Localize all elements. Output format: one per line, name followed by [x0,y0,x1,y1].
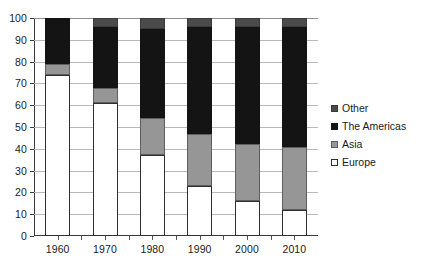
bar-segment-europe[interactable] [282,210,307,236]
x-axis-tick [129,236,130,240]
x-axis-tick [271,236,272,240]
bar-segment-europe[interactable] [140,155,165,236]
y-axis-tick [30,105,34,106]
y-axis-tick-label: 50 [15,121,27,133]
y-axis-tick-label: 90 [15,34,27,46]
x-axis-tick [176,236,177,240]
bar-column[interactable] [93,18,118,236]
x-axis-tick [58,236,59,240]
y-axis-tick [30,18,34,19]
chart-legend: OtherThe AmericasAsiaEurope [331,100,419,172]
bar-segment-other[interactable] [93,18,118,27]
bar-segment-asia[interactable] [93,88,118,103]
bar-segment-americas[interactable] [45,18,70,64]
gridline [34,105,318,106]
y-axis-tick-label: 100 [9,12,27,24]
x-axis-tick [223,236,224,240]
gridline [34,127,318,128]
bar-column[interactable] [282,18,307,236]
x-axis-tick [152,236,153,240]
y-axis-tick-label: 60 [15,99,27,111]
legend-swatch-asia-icon [331,141,338,148]
bar-segment-americas[interactable] [140,29,165,118]
bar-segment-asia[interactable] [282,147,307,210]
plot-area-wrapper: 0102030405060708090100 19601970198019902… [34,18,318,236]
y-axis-tick [30,214,34,215]
y-axis-tick [30,62,34,63]
bar-segment-americas[interactable] [235,27,260,145]
gridline [34,83,318,84]
x-axis-tick-label: 1990 [188,243,212,255]
gridline [34,192,318,193]
bar-segment-other[interactable] [140,18,165,29]
y-axis-tick-label: 20 [15,186,27,198]
legend-swatch-other-icon [331,105,338,112]
bar-segment-asia[interactable] [45,64,70,75]
y-axis-tick [30,149,34,150]
y-axis-tick-label: 0 [21,230,27,242]
y-axis-tick-label: 40 [15,143,27,155]
stacked-bar-chart: 0102030405060708090100 19601970198019902… [0,0,422,267]
legend-swatch-europe-icon [331,159,338,166]
bar-column[interactable] [187,18,212,236]
bar-segment-other[interactable] [235,18,260,27]
gridline [34,171,318,172]
y-axis-tick [30,40,34,41]
y-axis-tick-label: 70 [15,77,27,89]
x-axis-tick [200,236,201,240]
legend-swatch-americas-icon [331,123,338,130]
x-axis-tick-label: 1980 [140,243,164,255]
y-axis-tick-label: 80 [15,56,27,68]
bar-segment-other[interactable] [187,18,212,27]
bar-segment-europe[interactable] [45,75,70,236]
x-axis-tick [105,236,106,240]
bar-segment-asia[interactable] [140,118,165,155]
y-axis-tick-label: 30 [15,165,27,177]
bar-column[interactable] [45,18,70,236]
y-axis-tick [30,127,34,128]
x-axis-tick-label: 1960 [46,243,70,255]
legend-item-label: Europe [342,157,376,168]
y-axis-tick [30,83,34,84]
y-axis-tick [30,236,34,237]
bar-column[interactable] [235,18,260,236]
legend-item-label: Other [342,103,368,114]
bar-segment-other[interactable] [282,18,307,27]
legend-item-other[interactable]: Other [331,100,419,116]
x-axis-tick-label: 2000 [235,243,259,255]
y-axis-tick [30,192,34,193]
x-axis-tick [247,236,248,240]
legend-item-europe[interactable]: Europe [331,154,419,170]
gridline [34,18,318,19]
bar-column[interactable] [140,18,165,236]
gridline [34,40,318,41]
bar-segment-europe[interactable] [235,201,260,236]
x-axis-tick-label: 2010 [282,243,306,255]
y-axis-tick [30,171,34,172]
bar-segment-asia[interactable] [187,134,212,186]
bar-segment-asia[interactable] [235,144,260,201]
bar-segment-europe[interactable] [93,103,118,236]
y-axis-tick-label: 10 [15,208,27,220]
bar-segment-americas[interactable] [282,27,307,147]
bar-segment-americas[interactable] [187,27,212,134]
gridline [34,62,318,63]
x-axis-tick-label: 1970 [93,243,117,255]
legend-item-label: Asia [342,139,362,150]
x-axis-tick [81,236,82,240]
legend-item-label: The Americas [342,121,406,132]
bar-segment-americas[interactable] [93,27,118,88]
x-axis-tick [294,236,295,240]
gridline [34,214,318,215]
gridline [34,149,318,150]
legend-item-asia[interactable]: Asia [331,136,419,152]
bar-segment-europe[interactable] [187,186,212,236]
legend-item-americas[interactable]: The Americas [331,118,419,134]
